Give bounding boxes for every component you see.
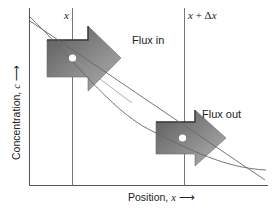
y-axis-label: Concentration, c ⟶ [10,65,22,160]
flux-out-label: Flux out [202,108,241,120]
y-axis-label-var: c [11,84,22,89]
y-axis-arrow-icon: ⟶ [10,65,22,84]
diffusion-diagram [0,0,278,210]
marker-label-x-plus-dx: x + Δx [188,9,217,21]
flux-in-arrow [47,26,121,91]
point-at-x [69,54,76,61]
marker-xdx-var2: x [212,9,217,21]
x-axis-label: Position, x ⟶ [128,191,195,203]
flux-in-label: Flux in [132,34,164,46]
marker-label-x: x [64,9,69,21]
point-at-x-plus-dx [179,134,186,141]
x-axis-label-text: Position, [128,191,171,203]
x-axis-arrow-icon: ⟶ [176,191,195,203]
marker-xdx-op: + Δ [193,9,212,21]
marker-x-var: x [64,9,69,21]
y-axis-label-text: Concentration, [10,89,22,160]
